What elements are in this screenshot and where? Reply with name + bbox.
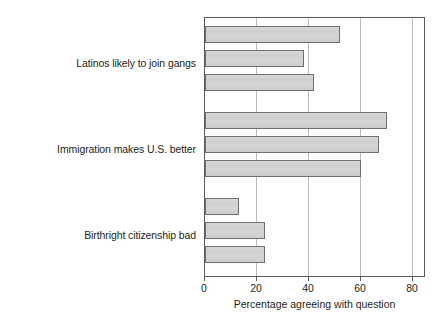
bar xyxy=(205,198,239,215)
bar-chart: Latinos likely to join gangs Urban Subur… xyxy=(0,0,444,321)
bar xyxy=(205,222,265,239)
x-tick-label-20: 20 xyxy=(241,282,271,294)
bar xyxy=(205,26,340,43)
gridline-80 xyxy=(412,18,413,276)
bar xyxy=(205,50,304,67)
x-axis-title: Percentage agreeing with question xyxy=(204,298,425,310)
plot-area xyxy=(204,17,425,277)
bar xyxy=(205,246,265,263)
x-tick-label-60: 60 xyxy=(345,282,375,294)
x-tick-label-40: 40 xyxy=(293,282,323,294)
x-tick-mark-80 xyxy=(412,277,413,281)
x-tick-label-0: 0 xyxy=(189,282,219,294)
x-tick-label-80: 80 xyxy=(397,282,427,294)
bar xyxy=(205,112,387,129)
bar xyxy=(205,74,314,91)
bar xyxy=(205,160,361,177)
x-tick-mark-20 xyxy=(256,277,257,281)
x-tick-mark-0 xyxy=(204,277,205,281)
bar xyxy=(205,136,379,153)
group-label-immigration: Immigration makes U.S. better xyxy=(57,143,196,155)
x-tick-mark-40 xyxy=(308,277,309,281)
x-tick-mark-60 xyxy=(360,277,361,281)
